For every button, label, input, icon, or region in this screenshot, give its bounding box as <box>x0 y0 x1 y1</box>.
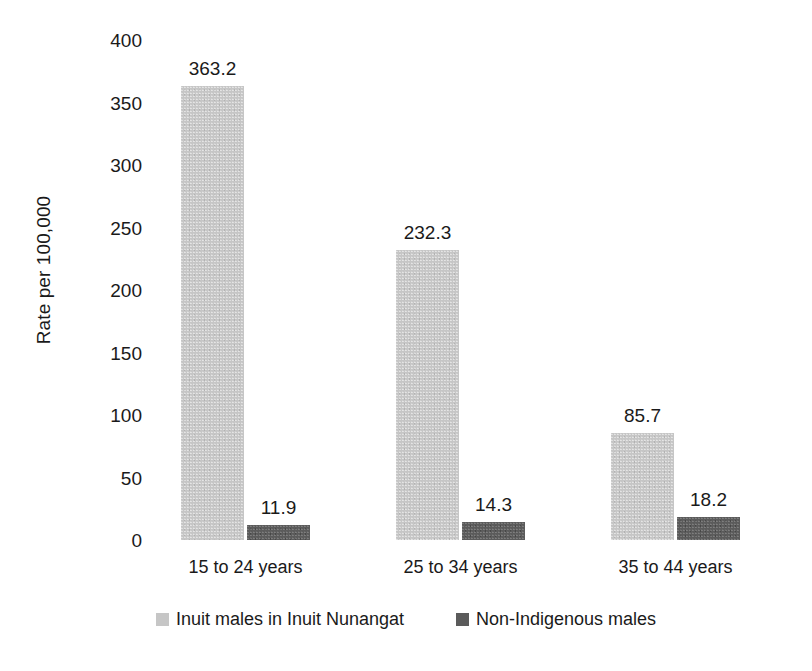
bar-item: 11.9 <box>247 525 310 540</box>
bar-item: 14.3 <box>462 522 525 540</box>
bar <box>677 517 740 540</box>
bar-item: 232.3 <box>396 250 459 540</box>
bar-item: 18.2 <box>677 517 740 540</box>
bar-group: 85.718.2 <box>580 40 795 540</box>
legend-swatch-series-a-icon <box>156 613 169 626</box>
y-axis-tick-labels: 400350300250200150100500 <box>62 0 142 671</box>
legend-item[interactable]: Non-Indigenous males <box>456 608 656 630</box>
legend-label: Inuit males in Inuit Nunangat <box>176 608 404 630</box>
y-axis-tick-label: 150 <box>62 343 142 362</box>
bar-chart: Rate per 100,000 40035030025020015010050… <box>0 0 812 671</box>
x-axis-category-label: 25 to 34 years <box>403 556 517 578</box>
plot-area: 363.211.9232.314.385.718.2 <box>150 40 795 540</box>
y-axis-tick-label: 0 <box>62 531 142 550</box>
y-axis-tick-label: 250 <box>62 218 142 237</box>
bar-item: 363.2 <box>181 86 244 540</box>
bar-value-label: 232.3 <box>404 223 452 242</box>
y-axis-tick-label: 350 <box>62 93 142 112</box>
y-axis-tick-label: 300 <box>62 156 142 175</box>
y-axis-tick-label: 200 <box>62 281 142 300</box>
y-axis-tick-label: 50 <box>62 468 142 487</box>
chart-legend: Inuit males in Inuit NunangatNon-Indigen… <box>0 608 812 630</box>
bar-group: 232.314.3 <box>365 40 580 540</box>
bar <box>396 250 459 540</box>
y-axis-title: Rate per 100,000 <box>22 0 66 540</box>
y-axis-tick-label: 100 <box>62 406 142 425</box>
bar-value-label: 11.9 <box>261 498 297 517</box>
bar-value-label: 18.2 <box>690 490 727 509</box>
x-axis-category-label: 35 to 44 years <box>618 556 732 578</box>
bar-group: 363.211.9 <box>150 40 365 540</box>
bar-item: 85.7 <box>611 433 674 540</box>
bar-value-label: 85.7 <box>624 406 661 425</box>
bar <box>611 433 674 540</box>
bar <box>181 86 244 540</box>
x-axis-category-label: 15 to 24 years <box>188 556 302 578</box>
bar-value-label: 14.3 <box>475 495 512 514</box>
legend-item[interactable]: Inuit males in Inuit Nunangat <box>156 608 404 630</box>
bar <box>247 525 310 540</box>
y-axis-tick-label: 400 <box>62 31 142 50</box>
legend-swatch-series-b-icon <box>456 613 469 626</box>
bar-value-label: 363.2 <box>189 59 237 78</box>
legend-label: Non-Indigenous males <box>476 608 656 630</box>
bar <box>462 522 525 540</box>
x-axis-category-labels: 15 to 24 years25 to 34 years35 to 44 yea… <box>150 556 795 582</box>
